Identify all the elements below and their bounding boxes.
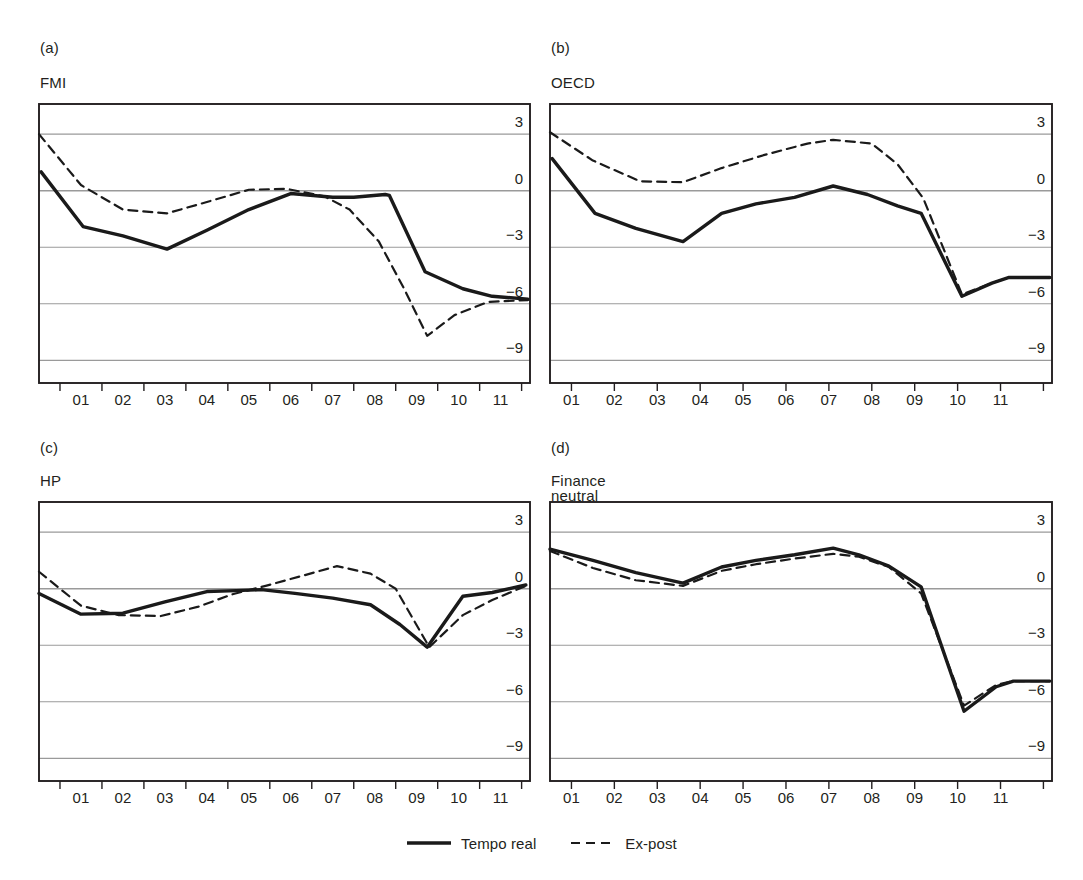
series-line-ex-post — [39, 566, 526, 647]
x-axis-tick-label: 11 — [493, 789, 509, 806]
plot-frame — [550, 502, 1052, 781]
x-axis-tick-label: 06 — [778, 789, 795, 806]
y-axis-tick-label: 0 — [1037, 170, 1045, 187]
legend-item-ex-post: Ex-post — [570, 835, 677, 852]
series-line-tempo-real — [39, 585, 526, 647]
x-axis-tick-label: 11 — [993, 789, 1009, 806]
x-axis-tick-label: 03 — [649, 789, 666, 806]
x-axis-tick-label: 09 — [906, 789, 923, 806]
x-axis-tick-label: 05 — [240, 789, 257, 806]
panel-b-plot: 30−3−6−90102030405060708091011 — [511, 0, 1083, 430]
series-line-ex-post — [550, 551, 1050, 706]
series-line-tempo-real — [552, 159, 1050, 297]
panel-c-plot: 30−3−6−90102030405060708091011 — [0, 398, 560, 828]
x-axis-tick-label: 04 — [199, 789, 216, 806]
y-axis-tick-label: −6 — [1028, 681, 1045, 698]
legend-label-ex-post: Ex-post — [625, 835, 677, 852]
y-axis-tick-label: −3 — [1028, 624, 1045, 641]
x-axis-tick-label: 07 — [821, 789, 838, 806]
x-axis-tick-label: 09 — [408, 789, 425, 806]
y-axis-tick-label: −9 — [1028, 339, 1045, 356]
legend-item-tempo-real: Tempo real — [406, 835, 536, 852]
y-axis-tick-label: −6 — [1028, 283, 1045, 300]
y-axis-tick-label: −9 — [1028, 737, 1045, 754]
legend-solid-line-icon — [406, 838, 452, 848]
panel-d-plot: 30−3−6−90102030405060708091011 — [511, 398, 1083, 828]
x-axis-tick-label: 01 — [73, 789, 90, 806]
legend-label-tempo-real: Tempo real — [461, 835, 536, 852]
x-axis-tick-label: 04 — [692, 789, 709, 806]
x-axis-tick-label: 05 — [735, 789, 752, 806]
plot-frame — [39, 502, 530, 781]
legend-dashed-line-icon — [570, 838, 616, 848]
y-axis-tick-label: 3 — [1037, 511, 1045, 528]
x-axis-tick-label: 01 — [563, 789, 580, 806]
x-axis-tick-label: 03 — [157, 789, 174, 806]
x-axis-tick-label: 06 — [282, 789, 299, 806]
x-axis-tick-label: 10 — [949, 789, 966, 806]
figure-four-panel-output-gap: (a) FMI 30−3−6−90102030405060708091011 (… — [0, 0, 1083, 880]
y-axis-tick-label: 0 — [1037, 568, 1045, 585]
chart-legend: Tempo real Ex-post — [0, 828, 1083, 858]
x-axis-tick-label: 08 — [863, 789, 880, 806]
series-line-tempo-real — [550, 548, 1050, 711]
x-axis-tick-label: 07 — [324, 789, 341, 806]
series-line-ex-post — [550, 132, 1050, 294]
x-axis-tick-label: 02 — [606, 789, 623, 806]
y-axis-tick-label: −3 — [1028, 226, 1045, 243]
panel-a-plot: 30−3−6−90102030405060708091011 — [0, 0, 560, 430]
x-axis-tick-label: 02 — [115, 789, 132, 806]
plot-frame — [39, 104, 530, 383]
y-axis-tick-label: 3 — [1037, 113, 1045, 130]
x-axis-tick-label: 08 — [366, 789, 383, 806]
x-axis-tick-label: 10 — [450, 789, 467, 806]
